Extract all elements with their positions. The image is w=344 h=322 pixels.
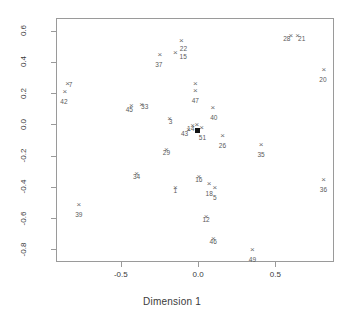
point-label: 42 (54, 98, 74, 105)
point-label: 20 (313, 76, 333, 83)
y-tick-label: -0.8 (18, 226, 29, 272)
point-label: 5 (205, 194, 225, 201)
y-tick-mark (51, 249, 56, 250)
point-label: 40 (204, 114, 224, 121)
x-tick-label: 0.5 (255, 270, 295, 279)
cross-marker-icon: × (177, 36, 185, 45)
cross-marker-icon: × (320, 65, 328, 74)
x-tick-mark (121, 262, 122, 267)
y-tick-mark (51, 124, 56, 125)
cross-marker-icon: × (257, 140, 265, 149)
square-marker-icon (195, 128, 200, 133)
cross-marker-icon: × (191, 86, 199, 95)
point-label: 49 (242, 256, 262, 263)
y-tick-mark (51, 218, 56, 219)
point-label: 15 (173, 53, 193, 60)
x-axis-title: Dimension 1 (0, 296, 344, 307)
point-label: 45 (119, 106, 139, 113)
y-tick-mark (51, 187, 56, 188)
cross-marker-icon: × (209, 103, 217, 112)
point-label: 35 (251, 151, 271, 158)
y-tick-mark (51, 156, 56, 157)
x-tick-mark (198, 262, 199, 267)
y-tick-mark (51, 31, 56, 32)
point-label: 12 (196, 216, 216, 223)
x-tick-label: 0.0 (178, 270, 218, 279)
point-label: 37 (149, 61, 169, 68)
cross-marker-icon: × (218, 131, 226, 140)
point-label: 47 (185, 97, 205, 104)
cross-marker-icon: × (61, 87, 69, 96)
point-label: 1 (165, 187, 185, 194)
y-tick-mark (51, 62, 56, 63)
point-label: 21 (292, 35, 312, 42)
cross-marker-icon: × (248, 245, 256, 254)
point-label: 46 (203, 238, 223, 245)
point-label: 29 (156, 149, 176, 156)
cross-marker-icon: × (75, 200, 83, 209)
point-label: 36 (313, 186, 333, 193)
cross-marker-icon: × (211, 183, 219, 192)
point-label: 39 (69, 211, 89, 218)
x-tick-mark (275, 262, 276, 267)
y-tick-mark (51, 93, 56, 94)
point-label: 3 (161, 118, 181, 125)
point-label: 34 (127, 173, 147, 180)
point-label: 51 (192, 134, 212, 141)
cross-marker-icon: × (156, 50, 164, 59)
cross-marker-icon: × (319, 175, 327, 184)
x-tick-label: -0.5 (101, 270, 141, 279)
point-label: 26 (212, 142, 232, 149)
scatter-plot-figure: Dimension 2 0.60.40.20.0-0.2-0.4-0.6-0.8… (0, 0, 344, 322)
